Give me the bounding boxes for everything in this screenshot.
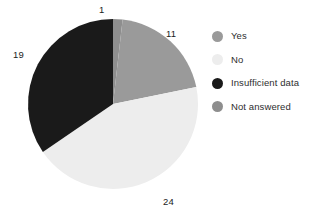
legend-label-insufficient-data: Insufficient data	[231, 78, 299, 88]
legend-label-yes: Yes	[231, 31, 247, 41]
pie-svg	[0, 0, 210, 217]
circle-swatch-icon	[212, 78, 223, 89]
chart-legend: Yes No Insufficient data Not answered	[212, 26, 328, 120]
legend-label-no: No	[231, 55, 243, 65]
slice-label-insufficient-data: 19	[13, 50, 24, 60]
slice-label-yes: 11	[166, 29, 176, 39]
legend-item-no[interactable]: No	[212, 50, 328, 70]
pie-chart-figure: 1 11 24 19 Yes No Insufficient data Not …	[0, 0, 328, 217]
circle-swatch-icon	[212, 31, 223, 42]
circle-swatch-icon	[212, 101, 223, 112]
circle-swatch-icon	[212, 54, 223, 65]
legend-label-not-answered: Not answered	[231, 102, 291, 112]
pie-plot-area: 1 11 24 19	[0, 0, 210, 217]
legend-item-yes[interactable]: Yes	[212, 26, 328, 46]
legend-item-not-answered[interactable]: Not answered	[212, 97, 328, 117]
legend-item-insufficient-data[interactable]: Insufficient data	[212, 73, 328, 93]
pie-slices-group	[28, 19, 198, 189]
slice-label-no: 24	[163, 197, 174, 207]
slice-label-not-answered: 1	[99, 5, 104, 15]
